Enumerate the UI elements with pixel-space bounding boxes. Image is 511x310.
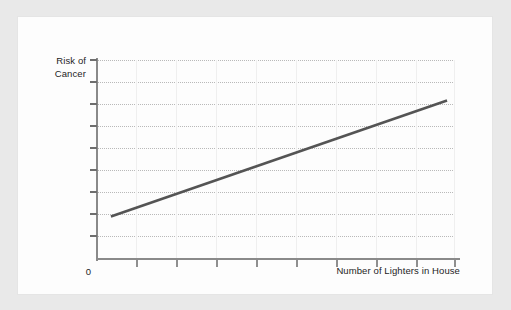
x-axis-label: Number of Lighters in House	[198, 265, 460, 276]
y-axis-label: Risk of Cancer	[18, 55, 86, 80]
chart-figure: Risk of Cancer 0 Number of Lighters in H…	[18, 17, 492, 294]
data-line-risk-of-cancer	[111, 101, 447, 217]
origin-label: 0	[73, 266, 91, 277]
chart-screenshot: Risk of Cancer 0 Number of Lighters in H…	[0, 0, 511, 310]
series-layer	[18, 17, 492, 294]
chart-paper: Risk of Cancer 0 Number of Lighters in H…	[18, 17, 492, 294]
